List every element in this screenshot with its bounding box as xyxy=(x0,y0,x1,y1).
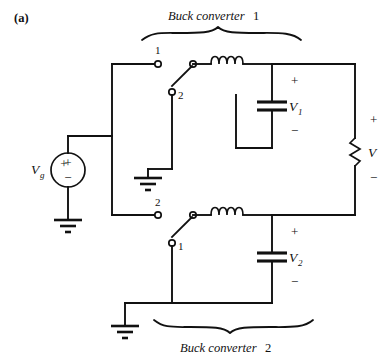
load-label: V xyxy=(368,145,378,160)
switch2-blade[interactable] xyxy=(172,217,192,237)
buck-converter-1-label: Buck converter xyxy=(168,9,245,23)
source-ground-icon xyxy=(54,220,82,232)
switch1-blade[interactable] xyxy=(172,66,192,86)
switch1-terminal-2-label: 2 xyxy=(178,89,184,101)
switch2-terminal-2-node[interactable] xyxy=(155,212,161,218)
load-resistor-icon xyxy=(350,138,360,166)
load-plus-sign: + xyxy=(370,112,377,127)
buck-converter-2-label: Buck converter xyxy=(180,341,257,355)
inductor1-coil-icon xyxy=(211,57,243,65)
switch1-terminal-1-node[interactable] xyxy=(155,61,161,67)
buck-converter-1-brace xyxy=(142,27,301,40)
inductor2-coil-icon xyxy=(211,208,243,216)
buck-converter-2-number: 2 xyxy=(265,341,271,355)
capacitor1-minus-sign: − xyxy=(291,123,298,138)
source-minus: − xyxy=(64,170,71,185)
capacitor1-plus-sign: + xyxy=(291,73,298,88)
capacitor2-plus-sign: + xyxy=(291,224,298,239)
capacitor1-label-subscript: 1 xyxy=(298,107,303,117)
switch2-terminal-1-label: 1 xyxy=(178,240,184,252)
switch1-terminal-1-label: 1 xyxy=(155,44,161,56)
circuit-figure: (a) Buck converter 1 + + − V g 1 xyxy=(0,0,387,362)
panel-label: (a) xyxy=(14,11,29,25)
circuit-schematic-svg: (a) Buck converter 1 + + − V g 1 xyxy=(0,0,387,362)
capacitor2-label-subscript: 2 xyxy=(298,258,303,268)
capacitor2-minus-sign: − xyxy=(291,274,298,289)
switch2-terminal-2-label: 2 xyxy=(155,196,161,208)
buck-converter-1-number: 1 xyxy=(253,9,259,23)
converter2-ground-icon xyxy=(111,303,139,338)
converter1-ground-icon xyxy=(134,169,162,190)
source-plus: + xyxy=(64,155,71,170)
source-label-subscript: g xyxy=(40,170,45,180)
buck-converter-2-brace xyxy=(154,320,313,333)
load-minus-sign: − xyxy=(370,170,377,185)
